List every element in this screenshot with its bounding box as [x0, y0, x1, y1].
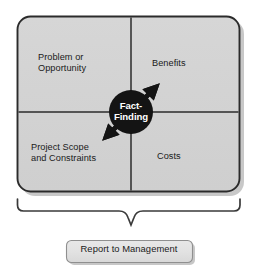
quadrant-label-problem-or-opportunity: Problem or Opportunity	[38, 52, 86, 75]
diagram-canvas	[0, 0, 256, 270]
fact-finding-diagram: Problem or Opportunity Benefits Project …	[0, 0, 256, 270]
fact-finding-label: Fact- Finding	[104, 100, 158, 122]
quadrant-label-benefits: Benefits	[152, 58, 186, 69]
quadrant-label-project-scope-and-constraints: Project Scope and Constraints	[31, 142, 96, 165]
brace	[18, 199, 241, 225]
quadrant-label-costs: Costs	[157, 151, 181, 162]
report-to-management-label: Report to Management	[66, 243, 192, 254]
